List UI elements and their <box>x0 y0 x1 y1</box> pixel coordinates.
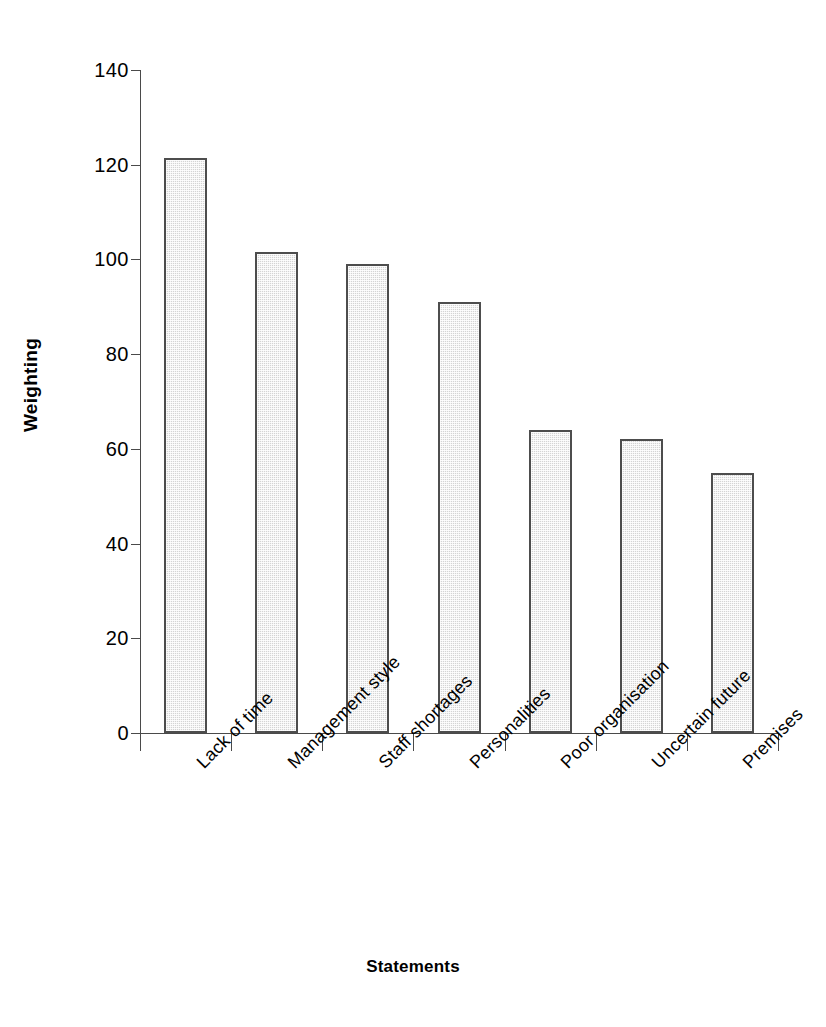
x-axis-title: Statements <box>0 957 826 977</box>
y-tick-label: 60 <box>59 437 129 461</box>
category-label: Lack of time <box>192 758 207 773</box>
y-tick-label: 80 <box>59 342 129 366</box>
category-label: Personalities <box>466 758 481 773</box>
y-tick-mark <box>131 449 140 450</box>
y-tick-mark <box>131 165 140 166</box>
y-tick-label: 140 <box>59 58 129 82</box>
y-tick-mark <box>131 544 140 545</box>
y-tick-mark <box>131 638 140 639</box>
category-label: Poor organisation <box>557 758 572 773</box>
bar <box>438 302 481 733</box>
y-axis-title: Weighting <box>18 305 44 465</box>
y-axis-line <box>140 70 141 733</box>
category-label: Management style <box>283 758 298 773</box>
bar <box>255 252 298 733</box>
y-tick-mark <box>131 70 140 71</box>
x-tick-mark <box>140 733 141 751</box>
category-label: Staff shortages <box>374 758 389 773</box>
bar <box>164 158 207 733</box>
category-label: Premises <box>739 758 754 773</box>
category-label: Uncertain future <box>648 758 663 773</box>
y-tick-mark <box>131 733 140 734</box>
y-tick-mark <box>131 354 140 355</box>
y-tick-label: 0 <box>59 721 129 745</box>
plot-area: 020406080100120140 Lack of timeManagemen… <box>140 60 780 745</box>
y-tick-label: 40 <box>59 532 129 556</box>
bar-chart: Weighting 020406080100120140 Lack of tim… <box>0 0 826 1027</box>
y-tick-label: 120 <box>59 153 129 177</box>
y-tick-label: 20 <box>59 626 129 650</box>
y-tick-mark <box>131 259 140 260</box>
y-tick-label: 100 <box>59 247 129 271</box>
